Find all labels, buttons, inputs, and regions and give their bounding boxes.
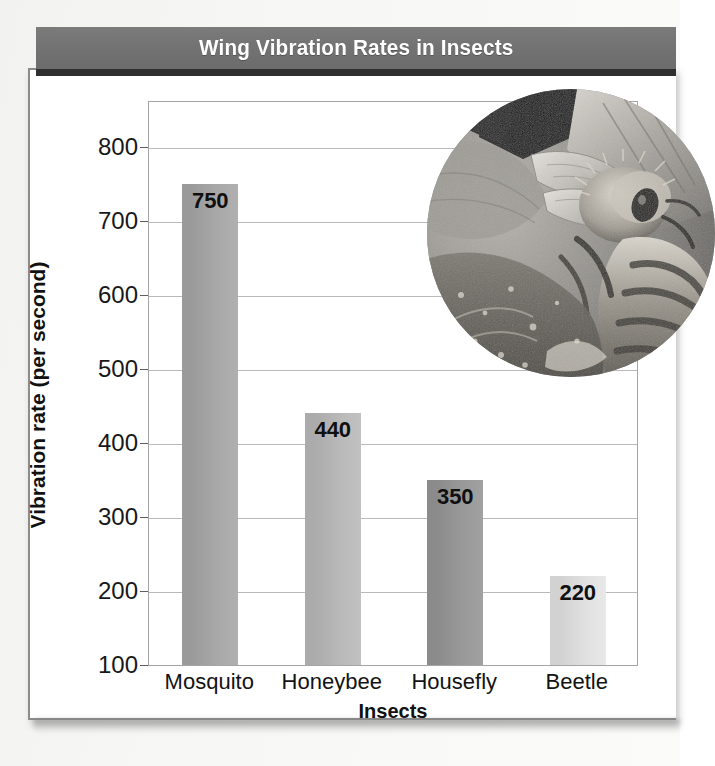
y-axis-tick (140, 295, 148, 296)
y-axis-title: Vibration rate (per second) (26, 205, 50, 585)
x-axis-category-label: Beetle (516, 669, 639, 695)
x-axis-category-label: Mosquito (148, 669, 271, 695)
y-axis-tick (140, 369, 148, 370)
honeybee-photo-image (427, 89, 715, 377)
y-axis-tick (140, 443, 148, 444)
y-axis-tick (140, 665, 148, 666)
y-axis-tick-label: 300 (48, 503, 138, 531)
y-axis-tick-label: 500 (48, 355, 138, 383)
y-axis-tick (140, 221, 148, 222)
x-axis-category-label: Housefly (393, 669, 516, 695)
chart-title: Wing Vibration Rates in Insects (199, 35, 513, 61)
x-axis-category-label: Honeybee (271, 669, 394, 695)
y-axis-tick-label: 400 (48, 429, 138, 457)
bar-value-label: 750 (182, 188, 238, 214)
y-axis-labels: 800700600500400300200100 (42, 0, 138, 766)
y-axis-tick-label: 800 (48, 133, 138, 161)
y-axis-tick (140, 591, 148, 592)
honeybee-photo (427, 89, 715, 377)
bar-value-label: 350 (427, 484, 483, 510)
y-axis-tick (140, 147, 148, 148)
y-axis-tick-label: 100 (48, 651, 138, 679)
bar-value-label: 440 (305, 417, 361, 443)
y-axis-tick-label: 200 (48, 577, 138, 605)
bar-housefly[interactable]: 350 (427, 480, 483, 665)
y-axis-tick (140, 517, 148, 518)
y-axis-tick-label: 600 (48, 281, 138, 309)
y-axis-tick-label: 700 (48, 207, 138, 235)
bar-beetle[interactable]: 220 (550, 576, 606, 665)
bar-honeybee[interactable]: 440 (305, 413, 361, 665)
bar-mosquito[interactable]: 750 (182, 184, 238, 665)
bar-value-label: 220 (550, 580, 606, 606)
x-axis-title: Insects (148, 700, 638, 723)
